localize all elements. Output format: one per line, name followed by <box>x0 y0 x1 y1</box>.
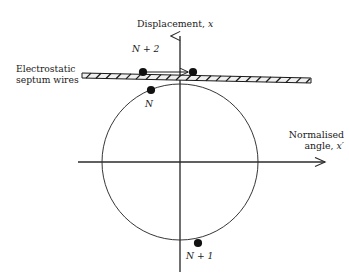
x-axis-title-line2: angle, x′ <box>264 140 344 151</box>
x-axis-title-line2-text: angle, <box>304 140 333 151</box>
particle-dot-n-plus-1 <box>194 239 202 247</box>
x-axis-title: Normalised angle, x′ <box>264 129 344 151</box>
particle-label-n-plus-2: N + 2 <box>132 44 159 55</box>
x-axis-title-line1: Normalised <box>264 129 344 140</box>
particle-label-n-plus-1: N + 1 <box>186 251 213 262</box>
y-axis-title-text: Displacement, <box>137 18 205 29</box>
x-axis-title-symbol: x′ <box>337 140 344 151</box>
septum-band <box>82 73 311 83</box>
particle-dot-n-plus-2 <box>139 68 147 76</box>
particle-dot-n <box>147 86 155 94</box>
septum-annotation: Electrostatic septum wires <box>16 64 79 86</box>
particle-dot-n-plus-2-kicked <box>189 68 197 76</box>
y-axis-title-symbol: x <box>208 18 213 29</box>
y-axis-title: Displacement, x <box>137 18 213 29</box>
septum-annotation-line2: septum wires <box>16 75 79 86</box>
particle-label-n: N <box>145 99 153 110</box>
figure-canvas: Displacement, x Normalised angle, x′ Ele… <box>0 0 349 274</box>
